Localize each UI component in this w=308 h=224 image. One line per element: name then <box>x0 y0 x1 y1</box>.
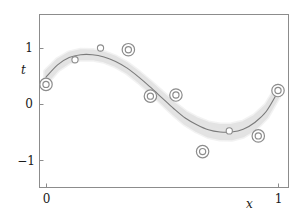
y-tick-label-1: 1 <box>22 42 36 54</box>
y-tick-label-0: 0 <box>22 98 36 110</box>
regression-figure: 1 0 −1 0 1 t x <box>0 0 308 224</box>
x-tick-label-1: 1 <box>272 193 285 205</box>
axis-ticks <box>40 49 279 188</box>
uncertainty-band <box>46 51 278 139</box>
y-axis-label: t <box>21 64 26 76</box>
x-axis-label: x <box>246 198 253 210</box>
y-tick-label-minus-1: −1 <box>16 155 36 167</box>
x-tick-label-0: 0 <box>40 193 53 205</box>
plot-canvas <box>0 0 308 224</box>
